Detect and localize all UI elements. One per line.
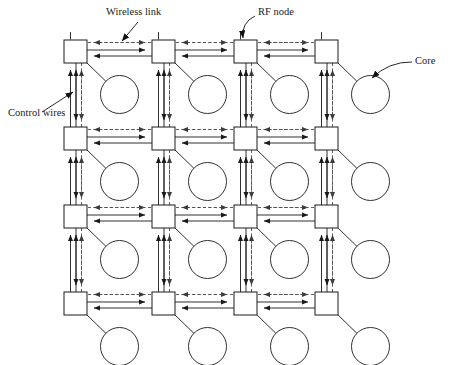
core	[337, 314, 390, 365]
core	[86, 62, 139, 114]
core-connector	[174, 314, 194, 333]
core	[337, 62, 390, 114]
label-control-wires: Control wires	[8, 107, 65, 118]
rf-node	[315, 292, 338, 315]
core	[86, 149, 139, 201]
vertical-link	[159, 150, 170, 205]
core-connector	[86, 149, 106, 168]
rf-node	[152, 205, 175, 228]
vertical-link	[71, 228, 82, 292]
rf-node	[152, 40, 175, 63]
core	[174, 314, 227, 365]
rf-node	[152, 127, 175, 150]
core-connector	[337, 314, 357, 333]
core-connector	[337, 62, 357, 81]
horizontal-link	[257, 295, 315, 309]
core-circle	[352, 76, 390, 114]
core-circle	[271, 241, 309, 279]
core	[86, 314, 139, 365]
network-on-chip-diagram: Wireless linkRF nodeCoreControl wires	[0, 0, 450, 365]
vertical-link	[322, 63, 333, 127]
core-connector	[86, 314, 106, 333]
core-connector	[256, 149, 276, 168]
vertical-link	[71, 150, 82, 205]
core-connector	[174, 62, 194, 81]
core-connector	[256, 314, 276, 333]
rf-node	[234, 127, 257, 150]
core-circle	[271, 328, 309, 365]
rf-node-leader	[243, 16, 255, 38]
core-circle	[101, 241, 139, 279]
diagram-canvas: Wireless linkRF nodeCoreControl wires	[0, 0, 450, 365]
horizontal-link	[87, 43, 152, 57]
core-circle	[189, 76, 227, 114]
rf-node	[234, 205, 257, 228]
core-connector	[174, 149, 194, 168]
vertical-link	[159, 228, 170, 292]
rf-node	[152, 292, 175, 315]
vertical-link	[241, 63, 252, 127]
core-circle	[352, 163, 390, 201]
core-leader	[372, 62, 412, 78]
core-connector	[256, 62, 276, 81]
vertical-link	[159, 63, 170, 127]
core-connector	[174, 227, 194, 246]
core-connector	[337, 227, 357, 246]
wireless-link-leader	[122, 22, 138, 41]
horizontal-link	[87, 295, 152, 309]
rf-node	[234, 292, 257, 315]
rf-node	[64, 40, 87, 63]
rf-node	[315, 40, 338, 63]
core-circle	[101, 328, 139, 365]
core-circle	[352, 328, 390, 365]
core	[174, 62, 227, 114]
label-wireless-link: Wireless link	[106, 6, 162, 17]
core	[174, 149, 227, 201]
core-circle	[101, 163, 139, 201]
horizontal-link	[87, 208, 152, 222]
core	[86, 227, 139, 279]
label-core: Core	[415, 55, 436, 66]
vertical-link	[241, 228, 252, 292]
rf-node	[64, 292, 87, 315]
core	[256, 227, 309, 279]
rf-node	[64, 205, 87, 228]
core-circle	[271, 163, 309, 201]
horizontal-link	[175, 43, 234, 57]
core	[256, 149, 309, 201]
horizontal-link	[257, 208, 315, 222]
core	[256, 62, 309, 114]
core-connector	[86, 62, 106, 81]
core-circle	[189, 328, 227, 365]
core	[337, 149, 390, 201]
core-connector	[256, 227, 276, 246]
horizontal-link	[175, 130, 234, 144]
horizontal-link	[175, 295, 234, 309]
core-circle	[189, 163, 227, 201]
core	[256, 314, 309, 365]
core	[174, 227, 227, 279]
label-rf-node: RF node	[258, 6, 294, 17]
core-circle	[101, 76, 139, 114]
rf-node	[315, 127, 338, 150]
core-circle	[352, 241, 390, 279]
horizontal-link	[257, 130, 315, 144]
vertical-link	[241, 150, 252, 205]
rf-node	[64, 127, 87, 150]
vertical-link	[71, 63, 82, 127]
core-connector	[337, 149, 357, 168]
rf-node	[315, 205, 338, 228]
horizontal-link	[257, 43, 315, 57]
horizontal-link	[175, 208, 234, 222]
core	[337, 227, 390, 279]
vertical-link	[322, 228, 333, 292]
horizontal-link	[87, 130, 152, 144]
vertical-link	[322, 150, 333, 205]
rf-node	[234, 40, 257, 63]
core-circle	[189, 241, 227, 279]
core-connector	[86, 227, 106, 246]
core-circle	[271, 76, 309, 114]
